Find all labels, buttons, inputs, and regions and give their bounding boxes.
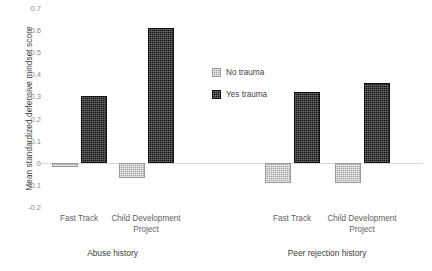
legend-item-no-trauma: No trauma [212,66,267,78]
y-tick-label: 0.6 [30,26,41,35]
yes-trauma-swatch-icon [212,90,221,99]
y-tick-label: -0.2 [28,203,41,212]
group-label-0: Abuse history [43,248,183,259]
category-label-3: Child DevelopmentProject [317,214,407,235]
bar-no-trauma-1 [119,163,145,178]
bar-no-trauma-2 [265,163,291,183]
group-label-1: Peer rejection history [257,248,397,259]
bar-yes-trauma-0 [81,96,107,162]
y-axis-title: Mean standardized defensive mindset scor… [25,11,34,207]
legend-item-yes-trauma: Yes trauma [212,88,267,100]
category-label-line2: Project [101,225,191,236]
bar-yes-trauma-2 [294,92,320,163]
y-tick-label: 0.2 [30,114,41,123]
y-tick-label: 0.1 [30,136,41,145]
chart-legend: No trauma Yes trauma [212,66,267,110]
y-tick-label: 0.5 [30,48,41,57]
bar-yes-trauma-3 [364,83,390,163]
category-label-line1: Child Development [101,214,191,225]
bar-yes-trauma-1 [148,28,174,163]
legend-label-no-trauma: No trauma [226,68,264,77]
y-tick-label: 0.3 [30,92,41,101]
y-tick-label: -0.1 [28,180,41,189]
zero-baseline [39,163,423,164]
category-label-line1: Child Development [317,214,407,225]
no-trauma-swatch-icon [212,68,221,77]
legend-label-yes-trauma: Yes trauma [226,90,267,99]
category-label-line2: Project [317,225,407,236]
bar-no-trauma-3 [335,163,361,183]
y-tick-label: 0.7 [30,4,41,13]
y-tick-label: 0.4 [30,70,41,79]
defensive-mindset-bar-chart: Mean standardized defensive mindset scor… [0,0,432,271]
bar-no-trauma-0 [52,163,78,167]
category-label-1: Child DevelopmentProject [101,214,191,235]
